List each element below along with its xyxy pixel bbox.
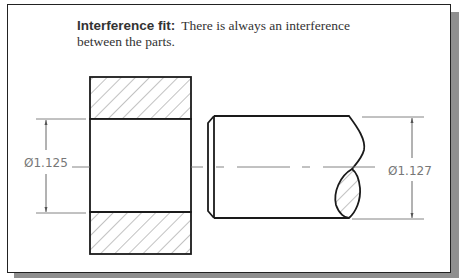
hub [90,77,191,254]
hole-diameter-label: Ø1.125 [24,156,68,170]
hole-dimension: Ø1.125 [24,119,86,213]
hub-top-section [90,77,191,119]
shaft-break-section [335,169,360,218]
hub-bottom-section [90,212,191,254]
hub-bore [90,119,191,212]
fit-drawing: Ø1.125 Ø1.127 [0,0,459,278]
shaft-diameter-label: Ø1.127 [388,164,432,178]
shaft-dimension: Ø1.127 [352,117,432,219]
